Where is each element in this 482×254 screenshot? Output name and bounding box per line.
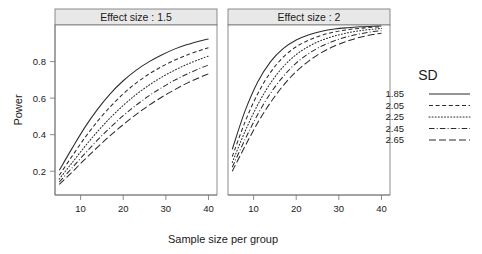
y-tick-label: 0.4 xyxy=(33,129,46,140)
x-tick-label: 10 xyxy=(75,203,86,214)
legend-label-1.85: 1.85 xyxy=(386,88,405,99)
panel-effect-size-2: Effect size : 2 10203040 xyxy=(228,9,390,214)
x-axis-ticks: 10203040 xyxy=(55,195,217,214)
legend: SD 1.852.052.252.452.65 xyxy=(386,67,471,145)
y-axis-ticks: 0.20.40.60.8 xyxy=(33,25,55,195)
x-tick-label: 40 xyxy=(376,203,387,214)
x-tick-label: 40 xyxy=(203,203,214,214)
x-axis-title: Sample size per group xyxy=(168,233,278,245)
legend-label-2.25: 2.25 xyxy=(386,111,405,122)
legend-label-2.45: 2.45 xyxy=(386,123,405,134)
x-tick-label: 20 xyxy=(291,203,302,214)
y-tick-label: 0.2 xyxy=(33,166,46,177)
legend-entries: 1.852.052.252.452.65 xyxy=(386,88,471,145)
x-tick-label: 30 xyxy=(161,203,172,214)
legend-label-2.65: 2.65 xyxy=(386,134,405,145)
panel-plot-frame xyxy=(55,25,217,195)
panel-strip-label: Effect size : 1.5 xyxy=(100,11,172,23)
x-tick-label: 30 xyxy=(334,203,345,214)
y-axis-title: Power xyxy=(12,94,24,126)
x-tick-label: 10 xyxy=(248,203,259,214)
chart-canvas: Effect size : 1.5 0.20.40.60.8 10203040 … xyxy=(0,0,482,254)
panel-strip-label: Effect size : 2 xyxy=(278,11,341,23)
power-curve-figure: Effect size : 1.5 0.20.40.60.8 10203040 … xyxy=(0,0,482,254)
y-tick-label: 0.6 xyxy=(33,93,46,104)
x-axis-ticks: 10203040 xyxy=(228,195,390,214)
y-tick-label: 0.8 xyxy=(33,56,46,67)
legend-label-2.05: 2.05 xyxy=(386,100,405,111)
legend-title: SD xyxy=(418,67,437,83)
panel-plot-frame xyxy=(228,25,390,195)
x-tick-label: 20 xyxy=(118,203,129,214)
panel-effect-size-1: Effect size : 1.5 0.20.40.60.8 10203040 xyxy=(33,9,217,214)
